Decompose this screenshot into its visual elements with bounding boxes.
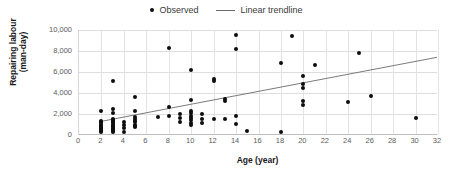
data-point [301, 103, 305, 107]
x-axis-tick-label: 12 [201, 137, 225, 145]
data-point [301, 82, 305, 86]
observed-marker-icon [150, 8, 154, 12]
data-point [133, 125, 137, 129]
x-axis-tick-label: 28 [380, 137, 404, 145]
x-axis-tick-label: 22 [313, 137, 337, 145]
y-axis-tick-label: 6,000 [36, 68, 72, 76]
trendline-segment [101, 57, 437, 121]
data-point [189, 98, 193, 102]
y-axis-tick-label: 8,000 [36, 47, 72, 55]
y-axis-title: Repairing labour (man-day) [7, 2, 29, 102]
data-point [212, 117, 216, 121]
trendline-marker-icon [216, 10, 235, 11]
data-point [111, 111, 115, 115]
x-axis-tick-label: 10 [178, 137, 202, 145]
data-point [279, 130, 283, 134]
x-axis-tick-label: 26 [358, 137, 382, 145]
legend-label-trendline: Linear trendline [240, 5, 302, 16]
data-point [189, 123, 193, 127]
data-point [234, 122, 238, 126]
x-axis-tick-label: 4 [111, 137, 135, 145]
x-axis-tick-label: 2 [88, 137, 112, 145]
x-axis-tick-label: 32 [425, 137, 449, 145]
x-axis-tick-label: 6 [133, 137, 157, 145]
data-point [167, 105, 171, 109]
x-axis-tick-label: 8 [156, 137, 180, 145]
plot-area [78, 30, 437, 135]
data-point [212, 79, 216, 83]
y-axis-tick-label: 10,000 [36, 26, 72, 34]
legend-label-observed: Observed [159, 5, 198, 16]
data-point [167, 114, 171, 118]
chart-legend: Observed Linear trendline [0, 3, 453, 17]
data-point [178, 120, 182, 124]
y-axis-tick-label: 2,000 [36, 110, 72, 118]
data-point [156, 115, 160, 119]
data-point [133, 95, 137, 99]
gridline-vertical [438, 30, 439, 135]
x-axis-tick-label: 18 [268, 137, 292, 145]
x-axis-tick-label: 20 [290, 137, 314, 145]
y-axis-tick-label: 4,000 [36, 89, 72, 97]
data-point [290, 34, 294, 38]
y-axis-title-line2: (man-day) [18, 32, 28, 73]
data-point [369, 94, 373, 98]
data-point [111, 130, 115, 134]
legend-entry-observed: Observed [150, 5, 198, 16]
y-axis-title-line1: Repairing labour [8, 18, 18, 86]
x-axis-tick-label: 14 [223, 137, 247, 145]
scatter-chart: Observed Linear trendline Repairing labo… [0, 0, 453, 174]
data-point [223, 117, 227, 121]
x-axis-tick-label: 30 [403, 137, 427, 145]
data-point [414, 116, 418, 120]
data-point [234, 33, 238, 37]
data-point [167, 46, 171, 50]
legend-entry-trendline: Linear trendline [216, 5, 302, 16]
x-axis-tick-label: 16 [246, 137, 270, 145]
x-axis-tick-label: 24 [335, 137, 359, 145]
x-axis-tick-label: 0 [66, 137, 90, 145]
data-point [122, 130, 126, 134]
data-point [279, 61, 283, 65]
data-point [313, 63, 317, 67]
x-axis-title: Age (year) [78, 155, 437, 165]
